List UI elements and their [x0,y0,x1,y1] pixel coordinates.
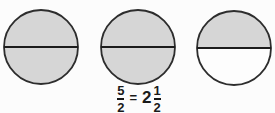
whole-number: 2 [142,88,151,108]
fraction-circles-figure: 5 2 = 2 1 2 [0,0,275,113]
fraction-circle-1 [2,8,80,86]
lhs-denominator: 2 [117,101,124,113]
fraction-equation: 5 2 = 2 1 2 [100,84,178,113]
fraction-one-half: 1 2 [154,84,161,113]
circle-1-top-half [4,10,78,47]
circle-2-top-half [101,10,175,47]
circle-2-bottom-half [101,47,175,84]
rhs-denominator: 2 [154,101,161,113]
circle-3-bottom-half [197,48,271,85]
fraction-circle-2 [99,8,177,86]
equals-sign: = [129,90,137,105]
fraction-five-halves: 5 2 [117,84,124,113]
rhs-numerator: 1 [154,84,161,97]
fraction-circle-3 [195,9,273,87]
circle-3-top-half [197,11,271,48]
circle-1-bottom-half [4,47,78,84]
lhs-numerator: 5 [117,84,124,97]
